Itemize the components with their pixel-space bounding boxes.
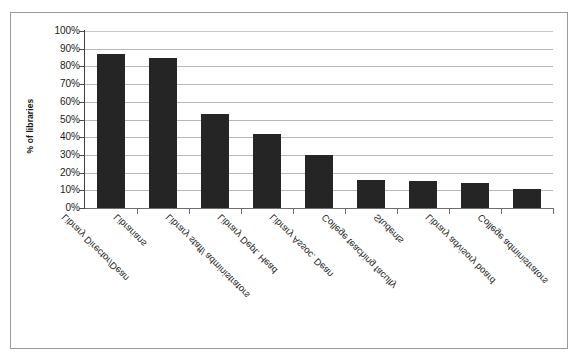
- bar: [201, 114, 229, 208]
- y-axis-tick-label: 90%: [40, 44, 80, 54]
- bar: [97, 54, 125, 208]
- bar: [253, 134, 281, 208]
- x-axis-line: [84, 208, 554, 209]
- x-axis-tick-mark: [501, 209, 502, 214]
- x-axis-tick-mark: [137, 209, 138, 214]
- y-axis-tick-label: 60%: [40, 97, 80, 107]
- y-axis-title-text: % of libraries: [25, 99, 35, 154]
- y-axis-tick-mark: [79, 66, 85, 67]
- x-axis-category-labels: Library Director/DeanLibrariansLibrary s…: [0, 212, 581, 342]
- y-axis-tick-label: 100%: [40, 26, 80, 36]
- plot-area: [85, 31, 553, 208]
- y-axis-tick-mark: [79, 208, 85, 209]
- bar: [149, 58, 177, 208]
- bar: [513, 189, 541, 208]
- x-axis-category-label: Library staff/ administrators: [163, 212, 252, 301]
- y-axis-tick-mark: [79, 31, 85, 32]
- y-axis-tick-mark: [79, 84, 85, 85]
- y-axis-title: % of libraries: [22, 86, 38, 166]
- x-axis-tick-mark: [345, 209, 346, 214]
- x-axis-tick-mark: [553, 209, 554, 214]
- y-axis-tick-mark: [79, 173, 85, 174]
- x-axis-category-label-text: Librarians: [111, 212, 148, 249]
- y-axis-tick-label: 30%: [40, 150, 80, 160]
- y-axis-tick-label: 10%: [40, 185, 80, 195]
- bar: [305, 155, 333, 208]
- x-axis-tick-mark: [293, 209, 294, 214]
- y-axis-tick-label: 40%: [40, 132, 80, 142]
- y-axis-tick-mark: [79, 120, 85, 121]
- y-axis-tick-mark: [79, 137, 85, 138]
- x-axis-tick-mark: [397, 209, 398, 214]
- bar: [461, 183, 489, 208]
- y-axis-tick-labels: 100%90%80%70%60%50%40%30%20%10%0%: [40, 24, 80, 214]
- x-axis-tick-mark: [189, 209, 190, 214]
- y-axis-tick-label: 80%: [40, 61, 80, 71]
- y-axis-tick-mark: [79, 49, 85, 50]
- x-axis-category-label-text: Students: [371, 212, 405, 246]
- y-axis-tick-mark: [79, 155, 85, 156]
- bar-chart-figure: % of libraries 100%90%80%70%60%50%40%30%…: [0, 0, 581, 364]
- x-axis-category-label: Students: [371, 212, 405, 246]
- x-axis-category-label: Librarians: [111, 212, 148, 249]
- gridline: [85, 31, 553, 32]
- y-axis-tick-mark: [79, 190, 85, 191]
- x-axis-tick-mark: [449, 209, 450, 214]
- y-axis-tick-mark: [79, 102, 85, 103]
- bar: [409, 181, 437, 208]
- y-axis-tick-label: 50%: [40, 115, 80, 125]
- x-axis-category-label-text: Library staff/ administrators: [163, 212, 252, 301]
- y-axis-tick-label: 20%: [40, 168, 80, 178]
- x-axis-tick-mark: [241, 209, 242, 214]
- gridline: [85, 49, 553, 50]
- y-axis-tick-label: 70%: [40, 79, 80, 89]
- bar: [357, 180, 385, 208]
